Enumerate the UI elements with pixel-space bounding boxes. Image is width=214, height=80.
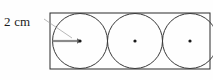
- center-dot-1: [78, 39, 81, 42]
- leader-line: [44, 19, 72, 38]
- center-dot-3: [188, 39, 191, 42]
- center-dot-2: [133, 39, 136, 42]
- figure-canvas: [0, 0, 213, 80]
- radius-dimension-label: 2 cm: [4, 14, 30, 30]
- inscribed-circle-3: [163, 14, 214, 69]
- geometry-figure: 2 cm: [0, 0, 213, 80]
